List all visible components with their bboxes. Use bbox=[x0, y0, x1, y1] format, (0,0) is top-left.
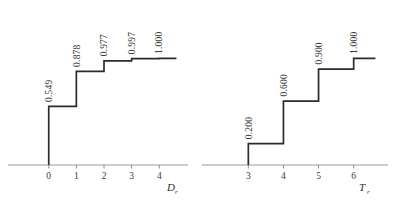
x-axis-tick-label: 0 bbox=[46, 171, 51, 181]
x-axis-tick-label: 3 bbox=[129, 171, 134, 181]
data-point-label: 0.900 bbox=[314, 42, 324, 64]
cdf-step-path bbox=[49, 58, 177, 165]
x-axis-label-left: Dr bbox=[166, 178, 196, 198]
x-axis-tick-label: 3 bbox=[246, 171, 251, 181]
data-point-label: 0.977 bbox=[99, 34, 109, 56]
x-axis-tick-label: 5 bbox=[316, 171, 321, 181]
data-point-label: 1.000 bbox=[154, 31, 164, 53]
x-axis-tick-label: 6 bbox=[351, 171, 356, 181]
axis-label-letter: D bbox=[166, 181, 175, 193]
data-point-label: 0.200 bbox=[244, 117, 254, 139]
x-axis-tick-label: 4 bbox=[157, 171, 162, 181]
x-axis-tick-label: 4 bbox=[281, 171, 286, 181]
cdf-step-path bbox=[248, 58, 375, 165]
data-point-label: 0.878 bbox=[72, 44, 82, 66]
axis-label-subscript: r bbox=[367, 188, 370, 196]
figure-container: 012340.5490.8780.9770.9971.000Dr34560.20… bbox=[0, 0, 394, 210]
x-axis-tick-label: 2 bbox=[102, 171, 107, 181]
x-axis-tick-label: 1 bbox=[74, 171, 79, 181]
x-axis-label-right: Tr bbox=[358, 178, 388, 198]
axis-label-subscript: r bbox=[175, 188, 178, 196]
data-point-label: 0.600 bbox=[279, 74, 289, 96]
data-point-label: 1.000 bbox=[349, 31, 359, 53]
data-point-label: 0.549 bbox=[44, 80, 54, 102]
axis-label-letter: T bbox=[359, 181, 366, 193]
data-point-label: 0.997 bbox=[127, 32, 137, 54]
